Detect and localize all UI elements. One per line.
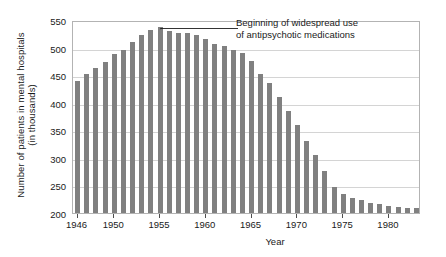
bar (332, 187, 337, 213)
x-axis-tick-label: 1975 (322, 219, 362, 230)
x-axis-tick-label: 1955 (139, 219, 179, 230)
bar (176, 33, 181, 213)
bar (93, 68, 98, 213)
x-axis-tick-mark (296, 214, 297, 218)
x-axis-tick-labels: 19461950195519601965197019751980 (0, 214, 446, 226)
annotation-leader-line (160, 28, 238, 30)
bar (258, 74, 263, 213)
bar (396, 207, 401, 213)
y-axis-tick-label: 350 (40, 126, 66, 137)
y-axis-title-line1: Number of patients in mental hospitals (15, 32, 26, 197)
bar (185, 33, 190, 213)
x-axis-tick-mark (205, 214, 206, 218)
y-axis-title: Number of patients in mental hospitals (… (15, 15, 37, 215)
bar (139, 35, 144, 213)
bar (75, 81, 80, 213)
bar (130, 42, 135, 213)
x-axis-tick-mark (77, 214, 78, 218)
bar-series (73, 22, 419, 213)
bar (368, 203, 373, 213)
bar-chart-figure: Number of patients in mental hospitals (… (0, 0, 446, 257)
annotation-line2: of antipsychotic medications (236, 29, 358, 41)
bar (112, 54, 117, 213)
y-axis-tick-label: 300 (40, 153, 66, 164)
bar (84, 74, 89, 214)
bar (295, 125, 300, 213)
bar (194, 35, 199, 213)
bar (203, 39, 208, 213)
bar (249, 61, 254, 213)
bar (267, 83, 272, 213)
bar (231, 50, 236, 213)
bar (222, 46, 227, 213)
bar (313, 155, 318, 213)
bar (405, 208, 410, 214)
bar (148, 30, 153, 213)
x-axis-tick-mark (388, 214, 389, 218)
x-axis-title: Year (0, 236, 446, 247)
bar (103, 62, 108, 213)
bar (359, 200, 364, 213)
bar (158, 27, 163, 213)
y-axis-tick-label: 250 (40, 181, 66, 192)
x-axis-tick-label: 1965 (231, 219, 271, 230)
x-axis-tick-mark (113, 214, 114, 218)
bar (322, 171, 327, 213)
bar (212, 44, 217, 213)
bar (304, 141, 309, 213)
bar (286, 111, 291, 213)
bar (121, 50, 126, 213)
x-axis-tick-label: 1946 (57, 219, 97, 230)
x-axis-tick-mark (342, 214, 343, 218)
x-axis-tick-mark (159, 214, 160, 218)
plot-area (72, 21, 420, 214)
bar (277, 97, 282, 213)
annotation-line1: Beginning of widespread use (236, 17, 358, 28)
annotation-text: Beginning of widespread use of antipsych… (236, 17, 358, 41)
x-axis-title-text: Year (265, 236, 284, 247)
y-axis-tick-label: 450 (40, 71, 66, 82)
x-axis-tick-label: 1950 (93, 219, 133, 230)
x-axis-tick-mark (251, 214, 252, 218)
y-axis-tick-label: 500 (40, 43, 66, 54)
x-axis-tick-label: 1970 (276, 219, 316, 230)
bar (386, 206, 391, 213)
bar (167, 31, 172, 213)
y-axis-tick-label: 550 (40, 16, 66, 27)
bar (414, 208, 419, 213)
x-axis-tick-label: 1980 (368, 219, 408, 230)
bar (240, 53, 245, 213)
bar (377, 204, 382, 213)
y-axis-tick-label: 400 (40, 98, 66, 109)
bar (341, 194, 346, 213)
bar (350, 198, 355, 213)
x-axis-tick-label: 1960 (185, 219, 225, 230)
